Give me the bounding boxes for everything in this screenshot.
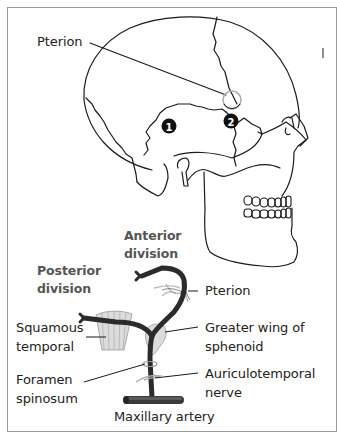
posterior-division-label-line2: division — [37, 280, 91, 298]
pterion-label-bottom: Pterion — [205, 283, 250, 299]
marker-1-label: 1 — [166, 122, 173, 133]
anterior-division-label-line2: division — [124, 245, 178, 263]
upper-teeth — [244, 196, 291, 207]
styloid-process — [177, 158, 189, 186]
maxillary-artery — [123, 396, 184, 404]
squamous-temporal-label: Squamous temporal — [16, 320, 84, 355]
maxillary-artery-label: Maxillary artery — [114, 409, 215, 425]
marker-2-label: 2 — [228, 117, 235, 128]
posterior-division-label: Posterior — [37, 262, 101, 280]
greater-wing-label: Greater wing of sphenoid — [205, 320, 305, 355]
cheek-bone — [262, 122, 306, 196]
squamous-temporal-bone — [96, 311, 132, 350]
mastoid-process — [137, 164, 168, 196]
lower-teeth — [244, 208, 291, 218]
nasal-curl — [285, 128, 290, 135]
zygomatic-arch — [174, 134, 262, 158]
auriculotemporal-nerve-label: Auriculotemporal nerve — [205, 366, 315, 401]
auriculotemporal-nerve — [136, 375, 160, 382]
squamosal-suture — [144, 104, 226, 155]
cranium-outline — [84, 17, 299, 170]
lambdoid-suture — [86, 98, 137, 182]
anterior-division-label: Anterior — [124, 227, 181, 245]
pterion-label-top: Pterion — [37, 34, 82, 50]
foramen-spinosum-label: Foramen spinosum — [16, 372, 78, 407]
pterion-leader-line — [90, 43, 226, 95]
condyle — [188, 165, 280, 180]
mandible — [204, 172, 297, 267]
